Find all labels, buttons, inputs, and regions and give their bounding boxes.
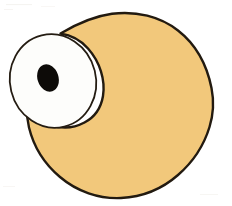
creature-drawing (0, 0, 232, 206)
illustration-canvas: Cartoon creature head with one large eye (0, 0, 232, 206)
